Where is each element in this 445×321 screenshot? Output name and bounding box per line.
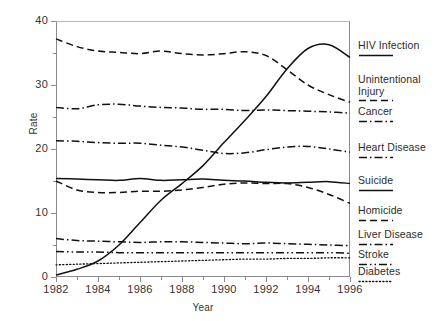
series-line-heart-disease [56,141,350,154]
legend-item-homicide[interactable]: Homicide [358,205,403,223]
legend-item-suicide[interactable]: Suicide [358,175,394,193]
series-line-hiv-infection [56,44,350,275]
legend-label: HIV Infection [358,40,419,52]
legend-item-stroke[interactable]: Stroke [358,249,394,267]
legend-line-sample-diabetes [358,279,394,284]
legend-item-hiv-infection[interactable]: HIV Infection [358,40,419,58]
legend-line-sample-hiv-infection [358,53,394,58]
legend-label: Homicide [358,205,403,217]
legend-item-liver-disease[interactable]: Liver Disease [358,229,423,247]
chart-root: Rate 010203040 1982198419861988199019921… [0,0,445,321]
legend-label: Heart Disease [358,142,426,154]
legend-line-sample-homicide [358,218,394,223]
series-line-suicide [56,178,350,183]
legend-item-heart-disease[interactable]: Heart Disease [358,142,426,160]
legend-line-sample-unintentional [358,98,394,103]
legend-label: Cancer [358,106,394,118]
legend-label: Diabetes [358,266,400,278]
legend-line-sample-heart-disease [358,155,394,160]
legend-line-sample-suicide [358,188,394,193]
series-line-homicide [56,181,350,203]
legend-label: Liver Disease [358,229,423,241]
series-line-cancer [56,104,350,113]
series-line-stroke [56,251,350,253]
legend-item-diabetes[interactable]: Diabetes [358,266,400,284]
series-line-unintentional-injury [56,39,350,102]
legend-label: Suicide [358,175,394,187]
legend-label-line2: Injury [358,86,421,98]
series-line-diabetes [56,258,350,265]
legend-label: Unintentional [358,74,421,86]
legend-line-sample-liver-disease [358,242,394,247]
legend-line-sample-cancer [358,119,394,124]
legend-label: Stroke [358,249,394,261]
legend-item-cancer[interactable]: Cancer [358,106,394,124]
legend-item-unintentional[interactable]: UnintentionalInjury [358,74,421,103]
series-line-liver-disease [56,239,350,246]
